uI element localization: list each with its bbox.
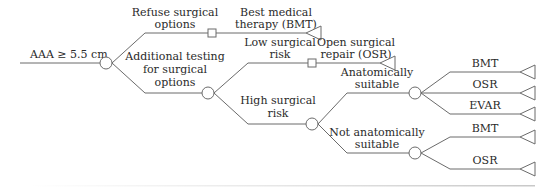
high-risk-label-1: High surgical	[240, 94, 316, 107]
suitable-bmt-edge	[421, 72, 520, 93]
not-suitable-osr-edge	[421, 153, 520, 169]
low-risk-decision-node	[308, 59, 316, 67]
root-chance-node	[100, 57, 112, 69]
anat-suitable-chance-node	[409, 87, 421, 99]
refuse-decision-node	[208, 29, 216, 37]
suitable-evar-label: EVAR	[469, 99, 501, 112]
anat-suitable-label-2: suitable	[355, 78, 399, 91]
additional-chance-node	[202, 87, 214, 99]
bottom-divider	[30, 185, 535, 187]
suitable-bmt-label: BMT	[472, 57, 499, 70]
not-suitable-osr-terminal-icon	[520, 162, 535, 176]
additional-label-1: Additional testing	[124, 50, 224, 63]
additional-label-2: for surgical	[143, 63, 208, 76]
high-risk-label-2: risk	[267, 107, 288, 120]
not-suitable-bmt-terminal-icon	[520, 130, 535, 144]
not-suitable-chance-node	[409, 147, 421, 159]
anat-suitable-edge	[318, 93, 409, 124]
suitable-osr-label: OSR	[473, 78, 499, 91]
not-suitable-osr-label: OSR	[473, 154, 499, 167]
additional-label-3: options	[155, 76, 196, 89]
not-suitable-bmt-edge	[421, 137, 520, 153]
not-suitable-label-2: suitable	[355, 138, 399, 151]
not-suitable-bmt-label: BMT	[472, 122, 499, 135]
low-risk-edge	[214, 63, 308, 93]
bmt-label-2: therapy (BMT)	[235, 18, 317, 31]
osr-label-2: repair (OSR)	[320, 48, 391, 61]
refuse-label-2: options	[155, 18, 196, 31]
decision-tree: AAA ≥ 5.5 cm Refuse surgical options Bes…	[0, 0, 555, 187]
suitable-bmt-terminal-icon	[520, 65, 535, 79]
suitable-osr-terminal-icon	[520, 86, 535, 100]
suitable-evar-terminal-icon	[520, 107, 535, 121]
high-risk-chance-node	[306, 118, 318, 130]
root-label: AAA ≥ 5.5 cm	[29, 48, 108, 61]
low-risk-label-2: risk	[269, 48, 290, 61]
